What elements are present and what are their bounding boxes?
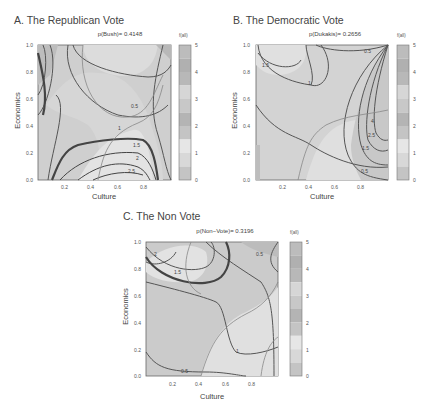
panel-b-cb-tick: 5: [413, 42, 416, 48]
svg-text:0.5: 0.5: [181, 368, 188, 374]
panel-c-colorbar-title: f(all): [290, 230, 299, 235]
panel-a-ytick: 1.0: [26, 42, 33, 48]
panel-b-xlabel: Culture: [310, 192, 334, 201]
panel-a-cb-tick: 3: [195, 96, 198, 102]
panel-b-subtitle: p(Dukakis)= 0.2656: [290, 31, 380, 37]
svg-text:2: 2: [154, 251, 157, 257]
panel-a-xtick: 0.8: [140, 184, 147, 190]
panel-c-xlabel: Culture: [200, 392, 224, 401]
panel-b-colorbar-title: f(all): [397, 33, 406, 38]
panel-b-ytick: 0.8: [243, 69, 250, 75]
panel-b-xtick: 0.4: [305, 184, 312, 190]
panel-a-xtick: 0.4: [87, 184, 94, 190]
panel-c-cb-tick: 3: [306, 293, 309, 299]
svg-text:0.5: 0.5: [364, 48, 371, 54]
panel-b-cb-tick: 1: [413, 150, 416, 156]
svg-text:2: 2: [136, 155, 139, 161]
panel-c-cb-tick: 0: [306, 373, 309, 379]
svg-text:2.5: 2.5: [368, 132, 375, 138]
panel-c-cb-tick: 1: [306, 347, 309, 353]
panel-a-ytick: 0.6: [26, 96, 33, 102]
panel-c-cb-tick: 4: [306, 266, 309, 272]
panel-c-ytick: 1.0: [134, 239, 141, 245]
panel-c-xtick: 0.6: [222, 381, 229, 387]
panel-b-plot: 0.510.5 1.542.51.5: [256, 45, 388, 180]
panel-a-xtick: 0.6: [114, 184, 121, 190]
panel-b-ytick: 0.2: [243, 150, 250, 156]
svg-text:0.5: 0.5: [361, 168, 368, 174]
svg-text:1: 1: [236, 348, 239, 354]
panel-c-xtick: 0.2: [169, 381, 176, 387]
svg-text:0.5: 0.5: [256, 251, 263, 257]
svg-text:4: 4: [371, 118, 374, 124]
panel-a-ytick: 0.2: [26, 150, 33, 156]
panel-b-xtick: 0.8: [357, 184, 364, 190]
panel-c-cb-tick: 2: [306, 320, 309, 326]
svg-text:1: 1: [308, 80, 311, 86]
panel-a-ytick: 0.4: [26, 123, 33, 129]
panel-c-xtick: 0.8: [248, 381, 255, 387]
panel-a-plot: 0.51 1.522.5: [38, 45, 171, 180]
panel-c-ytick: 0.4: [134, 320, 141, 326]
panel-c-subtitle: p(Non−Vote)= 0.3196: [180, 228, 270, 234]
panel-b-ytick: 1.0: [243, 42, 250, 48]
panel-a-cb-tick: 0: [195, 177, 198, 183]
panel-b-cb-tick: 3: [413, 96, 416, 102]
panel-a-colorbar: [179, 45, 191, 180]
panel-b-colorbar: [397, 45, 409, 180]
panel-a-cb-tick: 1: [195, 150, 198, 156]
panel-a-colorbar-title: f(all): [179, 33, 188, 38]
panel-c-ylabel: Economics: [121, 288, 130, 325]
svg-text:1.5: 1.5: [174, 269, 181, 275]
svg-text:1.5: 1.5: [262, 62, 269, 68]
panel-a-cb-tick: 5: [195, 42, 198, 48]
panel-c-colorbar: [290, 242, 302, 376]
panel-c-title: C. The Non Vote: [123, 210, 200, 222]
svg-text:1: 1: [118, 125, 121, 131]
panel-a-cb-tick: 4: [195, 69, 198, 75]
panel-a-title: A. The Republican Vote: [14, 14, 124, 26]
svg-text:2.5: 2.5: [128, 168, 135, 174]
panel-c-plot: 0.51.52 10.5: [146, 242, 278, 376]
panel-b-cb-tick: 0: [413, 177, 416, 183]
panel-c-xtick: 0.4: [195, 381, 202, 387]
panel-b-ytick: 0.0: [243, 177, 250, 183]
panel-c-cb-tick: 5: [306, 239, 309, 245]
panel-a-ylabel: Economics: [13, 92, 22, 129]
panel-a-ytick: 0.8: [26, 69, 33, 75]
panel-b-title: B. The Democratic Vote: [233, 14, 344, 26]
panel-c-ytick: 0.8: [134, 266, 141, 272]
panel-b-cb-tick: 4: [413, 69, 416, 75]
svg-text:1.5: 1.5: [362, 145, 369, 151]
panel-a-ytick: 0.0: [26, 177, 33, 183]
panel-b-ytick: 0.4: [243, 123, 250, 129]
panel-c-ytick: 0.6: [134, 293, 141, 299]
panel-b-xtick: 0.2: [279, 184, 286, 190]
panel-a-xlabel: Culture: [92, 192, 116, 201]
svg-text:1.5: 1.5: [133, 142, 140, 148]
panel-a-xtick: 0.2: [61, 184, 68, 190]
panel-b-ytick: 0.6: [243, 96, 250, 102]
panel-b-cb-tick: 2: [413, 123, 416, 129]
panel-c-ytick: 0.2: [134, 347, 141, 353]
panel-a-subtitle: p(Bush)= 0.4148: [80, 31, 160, 37]
panel-b-xtick: 0.6: [331, 184, 338, 190]
panel-c-ytick: 0.0: [134, 373, 141, 379]
panel-a-cb-tick: 2: [195, 123, 198, 129]
svg-text:0.5: 0.5: [131, 103, 138, 109]
panel-b-ylabel: Economics: [230, 92, 239, 129]
